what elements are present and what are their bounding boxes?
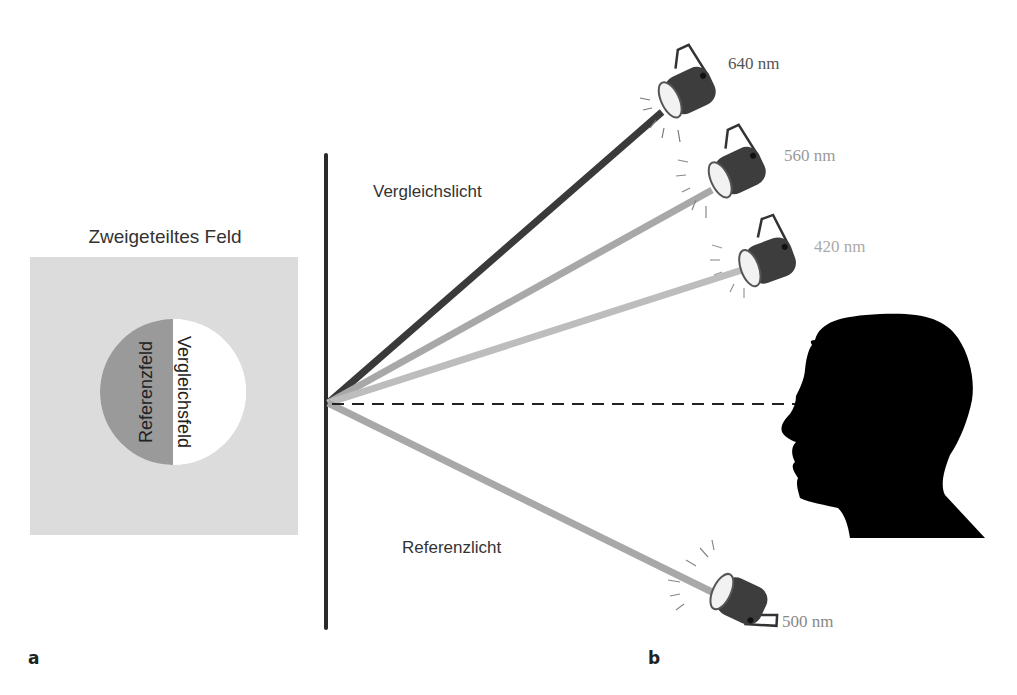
lamp-640-icon <box>644 42 720 121</box>
colorimeter-diagram <box>0 0 1017 695</box>
wavelength-420-label: 420 nm <box>814 237 865 257</box>
beam-500 <box>328 403 712 592</box>
wavelength-640-label: 640 nm <box>728 54 779 74</box>
beam-640 <box>328 112 662 403</box>
wavelength-500-label: 500 nm <box>782 612 833 632</box>
lamp-500-icon <box>705 570 788 637</box>
reference-light-label: Referenzlicht <box>402 538 501 558</box>
panel-letter-b: b <box>648 648 660 668</box>
comparison-light-label: Vergleichslicht <box>373 182 482 202</box>
observer-head-icon <box>781 314 985 538</box>
lamp-420-icon <box>727 213 800 290</box>
wavelength-560-label: 560 nm <box>784 146 835 166</box>
